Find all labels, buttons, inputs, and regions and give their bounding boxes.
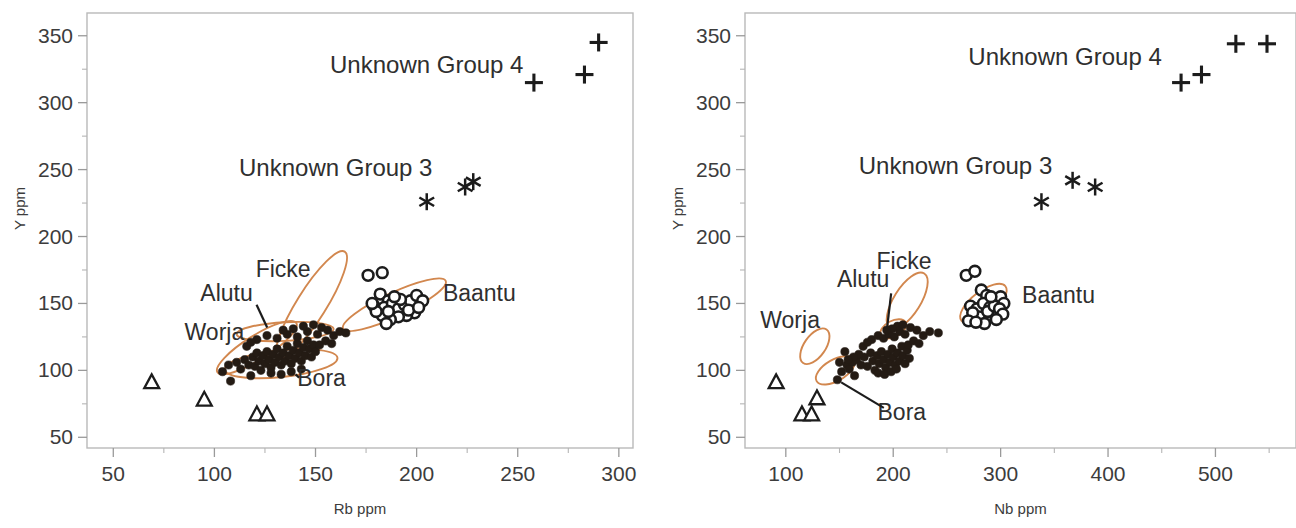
- panel-right-nb-vs-y: 50100150200250300350100200300400500Nb pp…: [648, 0, 1296, 528]
- y-tick-label-300: 300: [696, 91, 731, 114]
- data-point-plus: [1192, 66, 1210, 84]
- data-point-triangle: [810, 390, 825, 404]
- data-point-filled: [892, 365, 900, 373]
- x-tick-label-200: 200: [876, 462, 911, 485]
- data-point-open-circle: [991, 314, 1002, 325]
- data-point-open-circle: [413, 302, 424, 313]
- data-point-filled: [237, 365, 245, 373]
- panel-left-rb-vs-y: 5010015020025030035050100150200250300Rb …: [0, 0, 648, 528]
- data-point-filled: [883, 326, 891, 334]
- y-axis-title: Y ppm: [669, 187, 686, 230]
- data-point-open-circle: [986, 291, 997, 302]
- data-point-open-circle: [363, 270, 374, 281]
- data-point-filled: [277, 370, 285, 378]
- group-annotation-unknown-group-3: Unknown Group 3: [239, 154, 432, 181]
- x-tick-label-200: 200: [399, 462, 434, 485]
- y-tick-label-50: 50: [708, 425, 731, 448]
- data-point-filled: [247, 338, 255, 346]
- data-point-filled: [279, 326, 287, 334]
- cluster-label-worja: Worja: [760, 307, 820, 333]
- cluster-label-ficke: Ficke: [256, 256, 311, 282]
- plot-frame: [745, 13, 1296, 448]
- data-point-open-circle: [969, 266, 980, 277]
- group-annotation-unknown-group-4: Unknown Group 4: [330, 51, 523, 78]
- data-point-filled: [850, 372, 858, 380]
- data-point-filled: [289, 325, 297, 333]
- panel-left-svg: 5010015020025030035050100150200250300Rb …: [0, 0, 648, 528]
- data-point-filled: [841, 348, 849, 356]
- data-point-asterisk: [419, 193, 434, 210]
- cluster-label-baantu: Baantu: [1022, 282, 1095, 308]
- y-tick-label-200: 200: [38, 225, 73, 248]
- cluster-label-worja: Worja: [185, 319, 245, 345]
- data-point-open-circle: [383, 306, 394, 317]
- data-point-filled: [247, 372, 255, 380]
- cluster-label-alutu: Alutu: [837, 266, 889, 292]
- cluster-label-alutu: Alutu: [200, 280, 252, 306]
- data-point-plus: [1258, 35, 1276, 53]
- data-point-filled: [287, 368, 295, 376]
- data-point-triangle: [144, 374, 159, 388]
- data-point-filled: [267, 369, 275, 377]
- x-tick-label-50: 50: [102, 462, 125, 485]
- data-point-filled: [833, 376, 841, 384]
- cluster-label-bora: Bora: [297, 365, 346, 391]
- x-tick-label-400: 400: [1091, 462, 1126, 485]
- data-point-filled: [218, 368, 226, 376]
- x-tick-label-150: 150: [298, 462, 333, 485]
- group-annotation-unknown-group-3: Unknown Group 3: [859, 152, 1052, 179]
- data-point-filled: [863, 338, 871, 346]
- data-point-plus: [1227, 35, 1245, 53]
- leader-line-bora: [841, 382, 884, 408]
- data-point-filled: [844, 356, 852, 364]
- data-point-filled: [328, 340, 336, 348]
- plot-frame: [87, 13, 633, 448]
- x-tick-label-100: 100: [197, 462, 232, 485]
- data-point-filled: [263, 331, 271, 339]
- y-tick-label-250: 250: [38, 158, 73, 181]
- x-tick-label-300: 300: [983, 462, 1018, 485]
- x-tick-label-500: 500: [1198, 462, 1233, 485]
- cluster-label-baantu: Baantu: [443, 280, 516, 306]
- y-tick-label-300: 300: [38, 91, 73, 114]
- data-point-filled: [934, 329, 942, 337]
- y-tick-label-350: 350: [696, 24, 731, 47]
- data-point-open-circle: [971, 317, 982, 328]
- data-point-asterisk: [1034, 193, 1049, 210]
- data-point-filled: [226, 377, 234, 385]
- data-point-open-circle: [381, 318, 392, 329]
- x-axis-title: Nb ppm: [994, 500, 1047, 517]
- data-point-filled: [835, 358, 843, 366]
- y-axis-title: Y ppm: [11, 187, 28, 230]
- data-point-plus: [1172, 74, 1190, 92]
- data-point-filled: [299, 322, 307, 330]
- y-tick-label-200: 200: [696, 225, 731, 248]
- x-axis-title: Rb ppm: [334, 500, 387, 517]
- x-tick-label-250: 250: [500, 462, 535, 485]
- data-point-filled: [342, 329, 350, 337]
- y-tick-label-350: 350: [38, 24, 73, 47]
- data-point-filled: [273, 334, 281, 342]
- data-point-filled: [901, 330, 909, 338]
- data-point-plus: [575, 66, 593, 84]
- x-tick-label-100: 100: [768, 462, 803, 485]
- data-point-filled: [224, 361, 232, 369]
- data-point-open-circle: [367, 298, 378, 309]
- data-point-filled: [309, 321, 317, 329]
- group-annotation-unknown-group-4: Unknown Group 4: [968, 43, 1161, 70]
- data-point-asterisk: [1065, 172, 1080, 189]
- data-point-filled: [915, 340, 923, 348]
- data-point-plus: [525, 74, 543, 92]
- scatter-plot-figure: 5010015020025030035050100150200250300Rb …: [0, 0, 1296, 528]
- data-point-filled: [845, 365, 853, 373]
- data-point-filled: [899, 321, 907, 329]
- data-point-filled: [926, 327, 934, 335]
- data-point-filled: [293, 333, 301, 341]
- data-point-filled: [905, 354, 913, 362]
- data-point-open-circle: [377, 267, 388, 278]
- y-tick-label-100: 100: [38, 358, 73, 381]
- y-tick-label-100: 100: [696, 358, 731, 381]
- y-tick-label-250: 250: [696, 158, 731, 181]
- data-point-filled: [838, 368, 846, 376]
- y-tick-label-150: 150: [696, 291, 731, 314]
